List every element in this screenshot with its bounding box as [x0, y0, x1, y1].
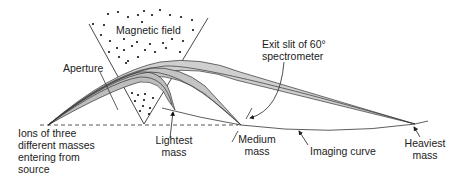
label-medium-line1: Medium [237, 134, 277, 145]
label-ions-line1: Ions of three [18, 128, 76, 139]
label-imaging-curve: Imaging curve [310, 146, 376, 157]
label-exit-slit-line1: Exit slit of 60° [262, 39, 326, 50]
label-ions-line4: source [18, 164, 50, 175]
label-exit-slit-line2: spectrometer [262, 51, 323, 62]
label-ions-line2: different masses [18, 140, 95, 151]
imaging-curve-arrow [299, 131, 308, 145]
lightest-point [172, 113, 175, 116]
label-lightest-line2: mass [152, 147, 196, 158]
heaviest-arrow [414, 127, 420, 137]
label-heaviest-line2: mass [403, 150, 447, 161]
mass-spectrometer-diagram: Magnetic field Aperture Exit slit of 60°… [0, 0, 459, 177]
label-aperture: Aperture [63, 63, 103, 74]
label-magnetic-field: Magnetic field [116, 25, 181, 36]
label-medium-line2: mass [237, 146, 277, 157]
label-lightest-line1: Lightest [152, 135, 196, 146]
label-ions-line3: entering from [18, 152, 80, 163]
imaging-curve [162, 108, 428, 130]
label-heaviest-line1: Heaviest [403, 138, 447, 149]
beam-lightest [48, 72, 175, 125]
